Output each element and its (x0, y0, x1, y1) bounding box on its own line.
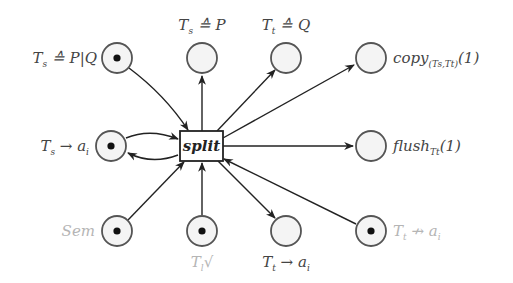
place-label: Tl√ (191, 253, 214, 273)
place-flush[interactable]: flushTt(1) (356, 131, 461, 161)
place-label: flushTt(1) (392, 137, 461, 157)
place-label: Tt → ai (262, 253, 310, 273)
place-ts-to-ai[interactable]: Ts → ai (40, 131, 126, 161)
arc-ts-eq-pq-to-split (129, 68, 188, 130)
arc-ts-to-ai-to-split (126, 133, 178, 139)
place-circle (356, 131, 386, 161)
place-label: Sem (62, 222, 95, 240)
place-label: Tt ↛ ai (393, 222, 441, 242)
token (113, 54, 120, 61)
arc-split-to-copy (223, 65, 354, 138)
token (367, 227, 374, 234)
arc-split-to-tt-eq-q (217, 70, 275, 131)
place-circle (356, 43, 386, 73)
place-sem[interactable]: Sem (62, 216, 132, 246)
arcs (126, 65, 356, 224)
place-circle (187, 43, 217, 73)
place-circle (271, 43, 301, 73)
token (107, 142, 114, 149)
place-label: copy(Ts,Tt)(1) (393, 49, 479, 69)
place-label: Ts ≙ P|Q (32, 49, 97, 69)
place-tt-not-ai[interactable]: Tt ↛ ai (356, 216, 441, 246)
place-tt-to-ai[interactable]: Tt → ai (262, 216, 310, 273)
place-tt-eq-q[interactable]: Tt ≙ Q (262, 16, 310, 73)
place-ts-eq-p[interactable]: Ts ≙ P (178, 16, 226, 73)
arc-split-to-ts-to-ai (128, 153, 178, 160)
diagram-canvas: split Ts ≙ P|Q Ts ≙ P Tt ≙ Q copy(Ts,Tt)… (0, 0, 513, 283)
place-tl-done[interactable]: Tl√ (187, 216, 217, 273)
petri-net-diagram: split Ts ≙ P|Q Ts ≙ P Tt ≙ Q copy(Ts,Tt)… (0, 0, 513, 283)
place-label: Ts ≙ P (178, 16, 226, 36)
transition-label: split (183, 137, 220, 155)
arc-tt-not-ai-to-split (224, 159, 356, 224)
place-label: Ts → ai (40, 137, 89, 157)
place-circle (271, 216, 301, 246)
place-copy[interactable]: copy(Ts,Tt)(1) (356, 43, 479, 73)
transition-split[interactable]: split (180, 131, 223, 161)
token (113, 227, 120, 234)
place-ts-eq-pq[interactable]: Ts ≙ P|Q (32, 43, 132, 73)
arc-sem-to-split (128, 162, 184, 220)
place-label: Tt ≙ Q (262, 16, 310, 36)
token (198, 227, 205, 234)
